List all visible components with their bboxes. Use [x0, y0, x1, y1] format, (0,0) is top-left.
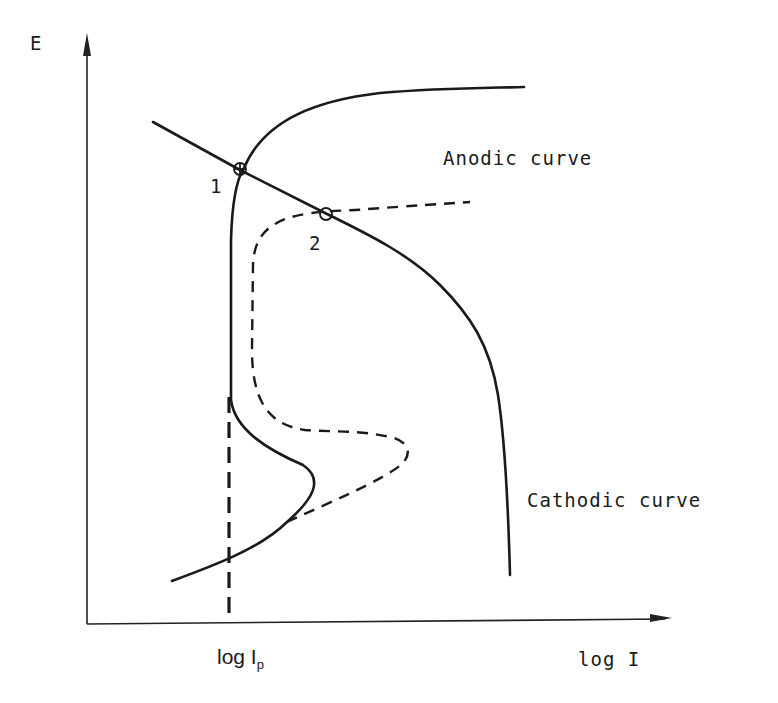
x-axis-arrow-icon [650, 614, 672, 622]
point-1-label: 1 [210, 175, 222, 197]
x-axis [87, 614, 672, 624]
polarization-diagram [0, 0, 778, 703]
x-axis-label: log I [578, 648, 640, 670]
point-2-label: 2 [309, 232, 321, 254]
x-tick-label-subscript: p [257, 657, 264, 672]
cathodic-curve-label: Cathodic curve [527, 489, 701, 511]
y-axis-arrow-icon [83, 33, 91, 56]
anodic-curve-dashed [252, 202, 470, 522]
cathodic-curve [153, 122, 510, 575]
x-tick-label-main: log I [217, 645, 257, 668]
intersection-1-marker [234, 163, 246, 175]
x-tick-label-log-ip: log Ip [217, 645, 264, 669]
anodic-curve-label: Anodic curve [443, 147, 592, 169]
y-axis [83, 33, 91, 624]
y-axis-label: E [30, 32, 42, 54]
